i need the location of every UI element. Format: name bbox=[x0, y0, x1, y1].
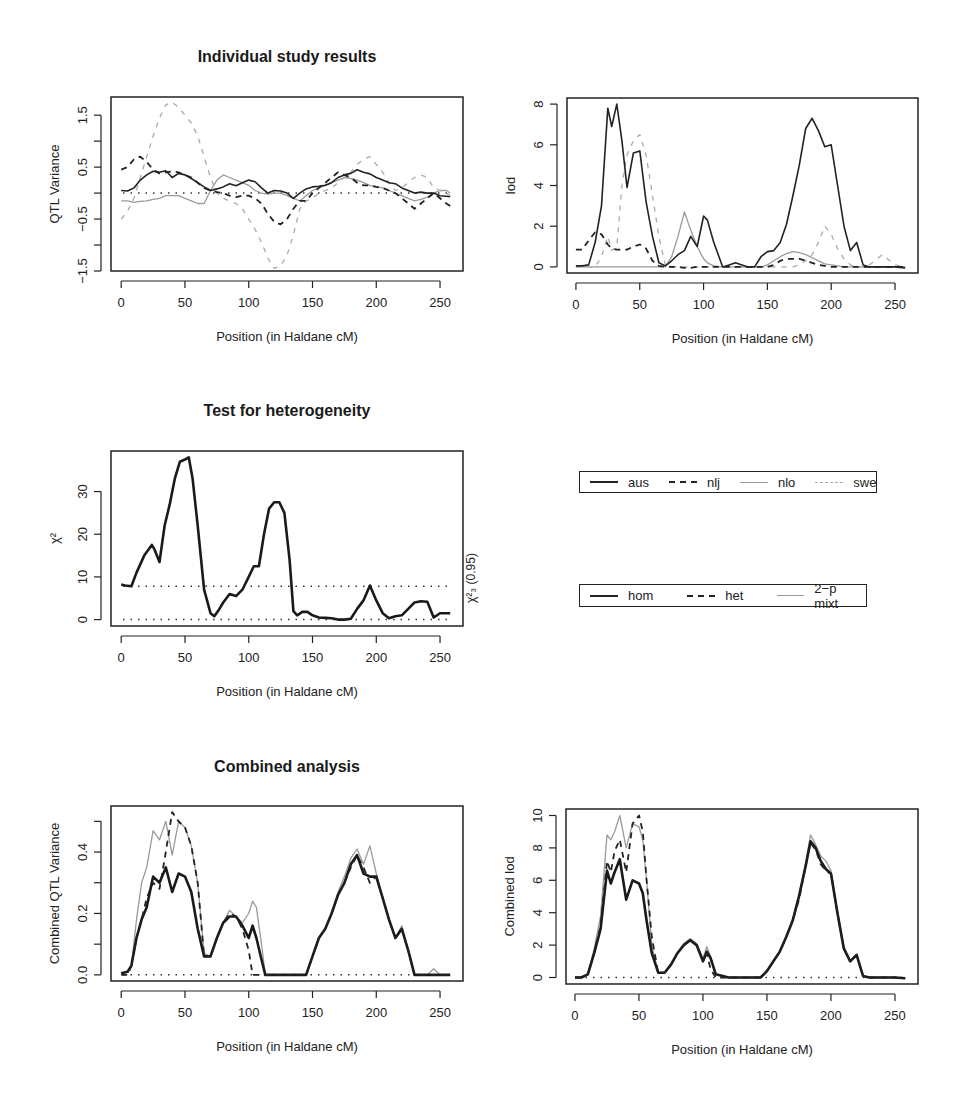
legend-item-het: het bbox=[687, 588, 743, 603]
x-tick-label: 100 bbox=[238, 650, 260, 665]
legend-item-aus: aus bbox=[590, 475, 649, 490]
y-tick-label: 6 bbox=[531, 141, 546, 148]
x-tick-label: 250 bbox=[884, 297, 906, 312]
y-axis-label: Combined QTL Variance bbox=[47, 823, 62, 965]
legend-label: nlo bbox=[778, 475, 795, 490]
x-tick-label: 100 bbox=[693, 297, 715, 312]
series-het bbox=[121, 812, 450, 975]
x-axis-label: Position (in Haldane cM) bbox=[216, 684, 358, 699]
y-axis-label: χ² bbox=[47, 532, 62, 544]
x-tick-label: 100 bbox=[692, 1008, 714, 1023]
legend-label: swe bbox=[853, 475, 876, 490]
series-aus bbox=[576, 104, 905, 268]
y-tick-label: −1.5 bbox=[75, 258, 90, 284]
x-tick-label: 150 bbox=[302, 1005, 324, 1020]
threshold-label: χ²₃ (0.95) bbox=[464, 553, 478, 603]
x-axis: 050100150200250Position (in Haldane cM) bbox=[118, 991, 451, 1054]
line-style-dotted-icon bbox=[777, 595, 804, 596]
chart-lod: 050100150200250Position (in Haldane cM)0… bbox=[503, 98, 918, 346]
x-tick-label: 200 bbox=[820, 297, 842, 312]
legend-studies: ausnljnloswe bbox=[579, 471, 877, 493]
x-axis-label: Position (in Haldane cM) bbox=[672, 331, 814, 346]
y-tick-label: 0 bbox=[531, 263, 546, 270]
x-tick-label: 50 bbox=[178, 295, 192, 310]
series-nlj bbox=[121, 157, 450, 225]
line-style-dashed-icon bbox=[687, 595, 715, 597]
y-axis: 0246810Combined lod bbox=[502, 808, 556, 981]
line-style-solid-icon bbox=[590, 481, 618, 483]
y-tick-label: 2 bbox=[531, 223, 546, 230]
x-tick-label: 200 bbox=[365, 650, 387, 665]
x-tick-label: 50 bbox=[178, 1005, 192, 1020]
x-tick-label: 150 bbox=[756, 1008, 778, 1023]
series-nlo bbox=[121, 175, 450, 204]
y-tick-label: 1.5 bbox=[75, 106, 90, 124]
y-tick-label: 0.0 bbox=[75, 966, 90, 984]
series-2-p-mixt bbox=[121, 821, 450, 975]
legend-label: nlj bbox=[707, 475, 720, 490]
line-style-dashed-icon bbox=[669, 481, 697, 483]
x-axis-label: Position (in Haldane cM) bbox=[216, 1039, 358, 1054]
y-tick-label: 4 bbox=[530, 909, 545, 916]
y-tick-label: 0.2 bbox=[75, 904, 90, 922]
x-tick-label: 50 bbox=[633, 297, 647, 312]
x-tick-label: 0 bbox=[571, 1008, 578, 1023]
x-tick-label: 250 bbox=[429, 1005, 451, 1020]
y-tick-label: 0.5 bbox=[75, 158, 90, 176]
x-tick-label: 150 bbox=[302, 650, 324, 665]
y-tick-label: 4 bbox=[531, 182, 546, 189]
plot-canvas: 050100150200250Position (in Haldane cM)−… bbox=[0, 0, 963, 1108]
y-tick-label: 0.4 bbox=[75, 843, 90, 861]
x-tick-label: 250 bbox=[429, 295, 451, 310]
series-chi2 bbox=[121, 457, 450, 619]
x-axis: 050100150200250Position (in Haldane cM) bbox=[118, 636, 451, 699]
x-axis: 050100150200250Position (in Haldane cM) bbox=[118, 281, 451, 344]
x-tick-label: 50 bbox=[632, 1008, 646, 1023]
y-axis: 0.00.20.4Combined QTL Variance bbox=[47, 821, 101, 984]
chart-combined-lod: 050100150200250Position (in Haldane cM)0… bbox=[502, 808, 918, 1057]
x-tick-label: 200 bbox=[365, 295, 387, 310]
series-swe bbox=[576, 135, 905, 267]
y-axis-label: lod bbox=[503, 177, 518, 194]
x-tick-label: 0 bbox=[572, 297, 579, 312]
y-tick-label: 20 bbox=[75, 527, 90, 541]
series-hom bbox=[121, 855, 450, 975]
y-tick-label: 2 bbox=[530, 941, 545, 948]
plot-frame bbox=[566, 809, 918, 984]
y-axis: −1.5−0.50.51.5QTL Variance bbox=[47, 106, 101, 284]
series-swe bbox=[121, 102, 450, 268]
legend-models: homhet2−p mixt bbox=[579, 584, 867, 607]
y-axis-label: QTL Variance bbox=[47, 145, 62, 224]
x-tick-label: 50 bbox=[178, 650, 192, 665]
x-axis-label: Position (in Haldane cM) bbox=[216, 329, 358, 344]
x-tick-label: 250 bbox=[884, 1008, 906, 1023]
chart-qtl-variance: 050100150200250Position (in Haldane cM)−… bbox=[47, 97, 463, 344]
line-style-solid-icon bbox=[590, 595, 618, 597]
line-style-ltdash-icon bbox=[815, 482, 843, 483]
x-tick-label: 100 bbox=[238, 295, 260, 310]
x-tick-label: 250 bbox=[429, 650, 451, 665]
y-tick-label: 6 bbox=[530, 877, 545, 884]
series-nlj bbox=[576, 232, 905, 268]
y-tick-label: 8 bbox=[531, 100, 546, 107]
legend-item-hom: hom bbox=[590, 588, 653, 603]
series-hom bbox=[575, 841, 905, 978]
legend-item-swe: swe bbox=[815, 475, 876, 490]
chart-heterogeneity: 050100150200250Position (in Haldane cM)0… bbox=[47, 451, 478, 699]
x-axis: 050100150200250Position (in Haldane cM) bbox=[571, 994, 905, 1057]
plot-frame bbox=[111, 97, 463, 271]
series-aus bbox=[121, 170, 450, 199]
legend-label: 2−p mixt bbox=[814, 581, 862, 611]
x-axis: 050100150200250Position (in Haldane cM) bbox=[572, 283, 906, 346]
y-tick-label: 8 bbox=[530, 844, 545, 851]
x-tick-label: 0 bbox=[118, 1005, 125, 1020]
x-axis-label: Position (in Haldane cM) bbox=[671, 1042, 813, 1057]
legend-item-2-p-mixt: 2−p mixt bbox=[777, 581, 862, 611]
x-tick-label: 100 bbox=[238, 1005, 260, 1020]
x-tick-label: 200 bbox=[820, 1008, 842, 1023]
legend-item-nlj: nlj bbox=[669, 475, 720, 490]
x-tick-label: 150 bbox=[757, 297, 779, 312]
legend-item-nlo: nlo bbox=[740, 475, 795, 490]
y-axis-label: Combined lod bbox=[502, 856, 517, 936]
y-tick-label: 30 bbox=[75, 484, 90, 498]
